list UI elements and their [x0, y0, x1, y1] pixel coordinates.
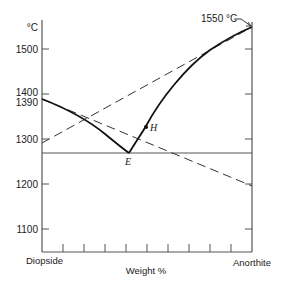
y-tick-label-1390: 1390: [16, 97, 39, 108]
point-h-label: H: [149, 122, 158, 133]
top-temperature-annotation: 1550 °C: [201, 13, 237, 24]
y-tick-label-1200: 1200: [16, 179, 39, 190]
diopside-label: Diopside: [26, 255, 63, 266]
point-h-marker: [144, 125, 148, 129]
y-tick-label-1300: 1300: [16, 134, 39, 145]
right-y-ticks: [245, 49, 252, 229]
left-y-ticks: [42, 49, 49, 229]
x-axis-label: Weight %: [126, 265, 167, 276]
liquidus-diopside-side: [42, 99, 129, 153]
x-ticks: [63, 244, 231, 252]
phase-diagram: °C 1500 1400 1390 1300 1200 1100 H E 155…: [0, 0, 285, 289]
liquidus-anorthite-side: [129, 27, 252, 153]
y-tick-label-1500: 1500: [16, 44, 39, 55]
dashed-line-falling: [42, 99, 252, 186]
eutectic-label: E: [124, 156, 131, 167]
anorthite-label: Anorthite: [233, 257, 271, 268]
y-unit-label: °C: [27, 22, 38, 33]
y-tick-label-1100: 1100: [16, 224, 38, 235]
